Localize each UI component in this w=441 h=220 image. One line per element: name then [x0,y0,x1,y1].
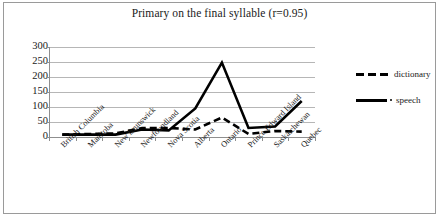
legend-label-dictionary: dictionary [394,69,431,79]
marker-dot-icon [390,99,392,101]
x-axis-tick-label: Alberta [192,125,216,149]
solid-line-swatch-icon [356,99,387,102]
chart-frame: Primary on the final syllable (r=0.95) 0… [3,2,436,214]
chart-legend: dictionary speech [356,69,440,121]
x-axis-tick-label: Quebec [299,125,323,149]
legend-label-speech: speech [396,95,421,105]
x-axis-tick-label: Manitoba [86,121,115,150]
legend-item-dictionary: dictionary [356,69,440,95]
x-axis-tick-label: Ontario [219,125,243,149]
legend-item-speech: speech [356,95,440,121]
x-axis-tick [49,138,50,141]
dashed-line-swatch-icon [356,73,389,76]
